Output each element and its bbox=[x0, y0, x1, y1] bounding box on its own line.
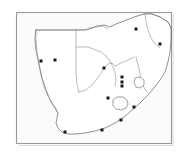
locality-dot bbox=[121, 81, 124, 84]
locality-dot bbox=[107, 97, 110, 100]
swaziland-enclave bbox=[134, 77, 144, 88]
locality-dot bbox=[135, 28, 138, 31]
map-figure bbox=[0, 0, 188, 156]
locality-dot bbox=[103, 67, 106, 70]
locality-dot bbox=[101, 129, 104, 132]
locality-dot bbox=[159, 43, 162, 46]
locality-dot bbox=[133, 106, 136, 109]
lesotho-enclave bbox=[113, 97, 128, 110]
map-frame bbox=[0, 0, 188, 156]
locality-dot bbox=[121, 76, 124, 79]
locality-dot bbox=[121, 85, 124, 88]
locality-dot bbox=[54, 59, 57, 62]
map-canvas bbox=[0, 0, 188, 156]
locality-dot bbox=[40, 60, 43, 63]
locality-dot bbox=[64, 131, 67, 134]
locality-dot bbox=[120, 119, 123, 122]
